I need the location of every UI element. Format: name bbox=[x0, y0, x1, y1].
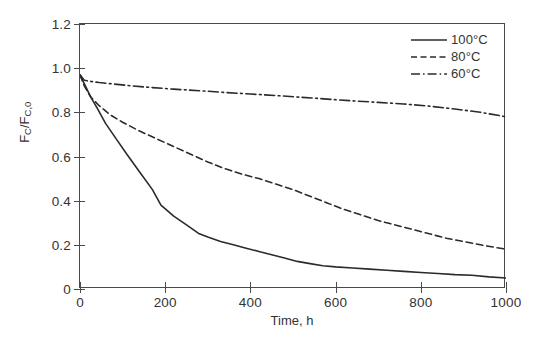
y-tick-label-1: 0.2 bbox=[52, 237, 71, 252]
legend-item-80c: 80°C bbox=[410, 48, 502, 65]
legend-label-60c: 60°C bbox=[451, 66, 480, 81]
chart-legend: 100°C 80°C 60°C bbox=[410, 31, 502, 82]
x-tick-4 bbox=[421, 287, 422, 293]
x-tick-inner-1 bbox=[165, 282, 166, 287]
x-axis-title: Time, h bbox=[79, 313, 505, 328]
y-tick-label-5: 1.0 bbox=[52, 61, 71, 76]
legend-item-100c: 100°C bbox=[410, 31, 502, 48]
series-line-80c bbox=[80, 75, 506, 249]
legend-label-80c: 80°C bbox=[451, 49, 480, 64]
x-tick-inner-5 bbox=[506, 282, 507, 287]
x-axis-title-text: Time, h bbox=[271, 313, 314, 328]
y-tick-label-2: 0.4 bbox=[52, 193, 71, 208]
y-tick-inner-6 bbox=[80, 24, 85, 25]
legend-line-sample-solid bbox=[410, 34, 448, 46]
x-tick-inner-2 bbox=[250, 282, 251, 287]
legend-line-sample-dash-dot bbox=[410, 68, 448, 80]
x-tick-label-1: 200 bbox=[154, 295, 177, 310]
x-tick-label-4: 800 bbox=[409, 295, 432, 310]
series-line-100c bbox=[80, 75, 506, 278]
x-tick-label-5: 1000 bbox=[491, 295, 522, 310]
y-tick-inner-5 bbox=[80, 68, 85, 69]
x-tick-inner-4 bbox=[421, 282, 422, 287]
x-tick-label-0: 0 bbox=[76, 295, 84, 310]
y-tick-label-6: 1.2 bbox=[52, 17, 71, 32]
y-tick-label-4: 0.8 bbox=[52, 105, 71, 120]
plot-area: 100°C 80°C 60°C 00.20.40.60.81.01.2 0200… bbox=[79, 23, 505, 288]
x-tick-5 bbox=[506, 287, 507, 293]
y-axis-title-text: FC/FC,0 bbox=[17, 102, 32, 143]
x-tick-0 bbox=[80, 287, 81, 293]
legend-label-100c: 100°C bbox=[451, 32, 488, 47]
x-tick-1 bbox=[165, 287, 166, 293]
x-tick-label-2: 400 bbox=[239, 295, 262, 310]
x-tick-3 bbox=[336, 287, 337, 293]
legend-item-60c: 60°C bbox=[410, 65, 502, 82]
x-tick-inner-3 bbox=[336, 282, 337, 287]
figure-canvas: FC/FC,0 Time, h 100°C 80°C bbox=[0, 0, 550, 338]
y-tick-inner-3 bbox=[80, 157, 85, 158]
y-tick-inner-4 bbox=[80, 112, 85, 113]
y-tick-label-0: 0 bbox=[63, 282, 71, 297]
x-tick-2 bbox=[250, 287, 251, 293]
y-axis-title: FC/FC,0 bbox=[17, 121, 33, 143]
x-tick-inner-0 bbox=[80, 282, 81, 287]
y-tick-inner-2 bbox=[80, 201, 85, 202]
y-tick-inner-1 bbox=[80, 245, 85, 246]
y-tick-label-3: 0.6 bbox=[52, 149, 71, 164]
x-tick-label-3: 600 bbox=[324, 295, 347, 310]
legend-line-sample-dashed bbox=[410, 51, 448, 63]
